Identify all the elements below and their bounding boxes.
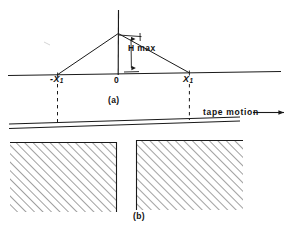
x-axis-label-negative-x1: -X1 <box>50 75 63 85</box>
x-axis-label-negative-x1-text: -X <box>50 74 60 84</box>
x-axis-label-positive-x1: X1 <box>183 75 193 85</box>
left-hatched-block <box>10 142 117 212</box>
triangular-profile-curve <box>58 34 190 75</box>
tape-motion-label: tape motion <box>203 108 259 117</box>
figure-container: H max -X1 0 X1 (a) tape motion (b) <box>0 0 289 230</box>
x-axis-label-negative-x1-subscript: 1 <box>60 77 64 84</box>
hmax-label: H max <box>128 44 156 53</box>
right-hatched-block <box>136 140 243 210</box>
scan-artifact-mark <box>44 42 50 45</box>
panel-a-horizontal-axis <box>8 72 281 76</box>
panel-a-caption: (a) <box>108 96 120 105</box>
panel-b-caption: (b) <box>133 212 145 221</box>
tape-band <box>9 117 240 129</box>
x-axis-label-origin: 0 <box>114 76 119 85</box>
x-axis-label-positive-x1-subscript: 1 <box>189 77 193 84</box>
